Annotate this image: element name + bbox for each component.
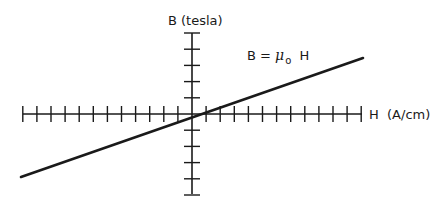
mu-subscript: o — [285, 55, 291, 66]
equation-lhs: B = — [247, 48, 271, 63]
equation-label: B = μo H — [247, 48, 309, 62]
equation-rhs: H — [299, 48, 309, 63]
x-axis-label: H (A/cm) — [369, 108, 430, 121]
mu-symbol: μ — [275, 47, 284, 63]
b-h-diagram — [0, 0, 446, 210]
y-axis-label: B (tesla) — [168, 14, 223, 27]
